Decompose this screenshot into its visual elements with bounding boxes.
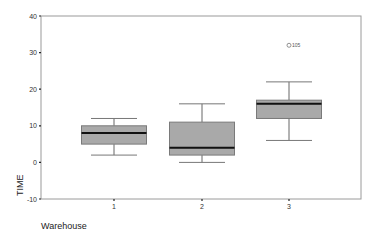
x-tick-label: 1 [112, 203, 116, 210]
box-2 [170, 104, 235, 163]
box-1 [82, 118, 147, 155]
y-tick-label: -10 [27, 196, 37, 203]
y-axis-title: TIME [15, 175, 25, 197]
outlier-marker [287, 43, 291, 47]
boxes: 105 [82, 42, 322, 162]
x-axis: 123 [112, 199, 291, 210]
iqr-box [170, 122, 235, 155]
y-axis: -10010203040 [27, 13, 41, 203]
x-tick-label: 3 [287, 203, 291, 210]
x-tick-label: 2 [200, 203, 204, 210]
box-3: 105 [257, 42, 322, 140]
y-tick-label: 10 [29, 122, 37, 129]
y-tick-label: 40 [29, 13, 37, 20]
iqr-box [82, 126, 147, 144]
y-tick-label: 0 [33, 159, 37, 166]
box-plot: -10010203040 123 105 TIME Warehouse [0, 0, 377, 243]
y-tick-label: 30 [29, 49, 37, 56]
x-axis-title: Warehouse [41, 221, 87, 231]
outlier-label: 105 [292, 42, 301, 48]
y-tick-label: 20 [29, 86, 37, 93]
